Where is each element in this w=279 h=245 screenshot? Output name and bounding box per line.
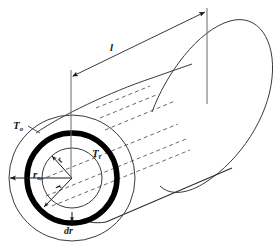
far-end-cap-outline xyxy=(152,20,273,193)
length-label: l xyxy=(110,42,113,53)
dashed-line-3 xyxy=(105,101,175,130)
hollow-cylinder-figure: To Ti ro r r dr l xyxy=(0,0,279,245)
outer-temperature-label: To xyxy=(13,120,23,131)
dashed-line-6 xyxy=(52,150,190,206)
outer-radius-label: ro xyxy=(33,169,41,180)
cylinder-top-edge xyxy=(36,78,152,133)
inner-temperature-label: Ti xyxy=(92,148,101,159)
figure-canvas xyxy=(0,0,279,245)
cylinder-top-edge-straight xyxy=(152,64,192,78)
outer-temperature-leader xyxy=(28,126,40,133)
cylinder-bottom-edge-join xyxy=(90,222,106,223)
differential-thickness-label: dr xyxy=(64,226,73,236)
r-lower-dimension-arrow[interactable] xyxy=(44,178,72,207)
dashed-line-2 xyxy=(100,95,156,118)
